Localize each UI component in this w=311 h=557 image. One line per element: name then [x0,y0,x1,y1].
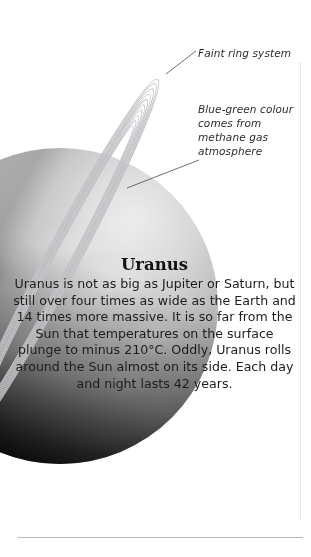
leader-line-ring [166,51,196,74]
article-body: Uranus is not as big as Jupiter or Satur… [12,276,297,392]
bottom-divider-rule [18,537,303,538]
page-root: Faint ring system Blue-green colour come… [0,0,311,557]
page-title: Uranus [12,255,297,275]
callout-faint-ring-system: Faint ring system [198,46,303,60]
article-text-block: Uranus Uranus is not as big as Jupiter o… [12,255,297,523]
callout-blue-green-colour: Blue-green colour comes from methane gas… [198,102,306,158]
